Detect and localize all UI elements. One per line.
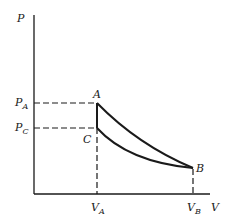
vb-tick-label: VB bbox=[187, 201, 201, 216]
pa-sub: A bbox=[21, 102, 28, 111]
va-tick-label: VA bbox=[91, 201, 105, 216]
point-b-label: B bbox=[195, 162, 204, 175]
y-axis-label: P bbox=[16, 12, 25, 25]
pv-diagram: P V A B C PA PC VA VB bbox=[0, 0, 234, 224]
va-sub: A bbox=[98, 207, 105, 216]
x-axis-label: V bbox=[211, 201, 220, 214]
pa-tick-label: PA bbox=[14, 96, 28, 111]
vb-sub: B bbox=[194, 207, 201, 216]
point-c-label: C bbox=[83, 133, 92, 146]
point-a-label: A bbox=[92, 88, 101, 101]
pc-sub: C bbox=[22, 127, 28, 136]
pc-tick-label: PC bbox=[14, 121, 29, 136]
